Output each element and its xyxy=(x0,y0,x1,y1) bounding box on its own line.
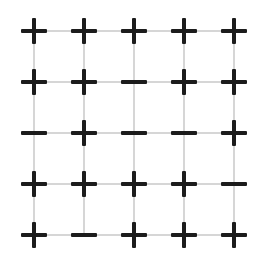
minus-icon xyxy=(71,222,97,248)
plus-icon xyxy=(221,18,247,44)
plus-icon xyxy=(21,69,47,95)
minus-icon xyxy=(221,171,247,197)
plus-icon xyxy=(71,120,97,146)
minus-icon xyxy=(21,120,47,146)
plus-icon xyxy=(71,171,97,197)
plus-icon xyxy=(121,171,147,197)
plus-icon xyxy=(171,171,197,197)
plus-icon xyxy=(21,222,47,248)
spin-lattice xyxy=(0,0,267,261)
plus-icon xyxy=(171,222,197,248)
minus-icon xyxy=(121,120,147,146)
plus-icon xyxy=(221,120,247,146)
plus-icon xyxy=(221,222,247,248)
plus-icon xyxy=(121,18,147,44)
plus-icon xyxy=(121,222,147,248)
plus-icon xyxy=(171,69,197,95)
plus-icon xyxy=(71,69,97,95)
plus-icon xyxy=(21,18,47,44)
plus-icon xyxy=(221,69,247,95)
minus-icon xyxy=(121,69,147,95)
plus-icon xyxy=(71,18,97,44)
plus-icon xyxy=(21,171,47,197)
plus-icon xyxy=(171,18,197,44)
minus-icon xyxy=(171,120,197,146)
